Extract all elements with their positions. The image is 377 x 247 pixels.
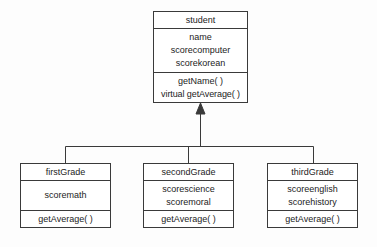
class-box-firstgrade[interactable]: firstGrade scoremath getAverage( ) <box>20 163 111 228</box>
methods-section-student: getName( ) virtual getAverage( ) <box>154 73 247 102</box>
class-name-section-thirdgrade: thirdGrade <box>268 164 357 181</box>
method-row: getAverage( ) <box>144 213 233 226</box>
attributes-section-thirdgrade: scoreenglish scorehistory <box>268 181 357 211</box>
attribute-row: scorescience <box>144 183 233 196</box>
attribute-row: scoremath <box>21 189 110 202</box>
class-box-student[interactable]: student name scorecomputer scorekorean g… <box>153 11 248 103</box>
method-row: getName( ) <box>154 75 247 88</box>
class-name-student: student <box>154 14 247 27</box>
class-name-section-firstgrade: firstGrade <box>21 164 110 181</box>
class-name-section-student: student <box>154 12 247 29</box>
attribute-row: scoreenglish <box>268 183 357 196</box>
attributes-section-firstgrade: scoremath <box>21 181 110 211</box>
method-row: getAverage( ) <box>268 213 357 226</box>
class-name-firstgrade: firstGrade <box>21 166 110 179</box>
inheritance-arrowhead <box>196 103 205 114</box>
attribute-row: scorekorean <box>154 57 247 70</box>
methods-section-thirdgrade: getAverage( ) <box>268 211 357 228</box>
methods-section-firstgrade: getAverage( ) <box>21 211 110 228</box>
method-row: getAverage( ) <box>21 213 110 226</box>
class-name-secondgrade: secondGrade <box>144 166 233 179</box>
attribute-row: scorecomputer <box>154 44 247 57</box>
attributes-section-student: name scorecomputer scorekorean <box>154 29 247 73</box>
attributes-section-secondgrade: scorescience scoremoral <box>144 181 233 211</box>
method-row: virtual getAverage( ) <box>154 88 247 101</box>
uml-class-diagram: student name scorecomputer scorekorean g… <box>0 0 377 247</box>
attribute-row: name <box>154 31 247 44</box>
class-name-thirdgrade: thirdGrade <box>268 166 357 179</box>
class-box-thirdgrade[interactable]: thirdGrade scoreenglish scorehistory get… <box>267 163 358 228</box>
attribute-row: scorehistory <box>268 196 357 209</box>
class-name-section-secondgrade: secondGrade <box>144 164 233 181</box>
attribute-row: scoremoral <box>144 196 233 209</box>
class-box-secondgrade[interactable]: secondGrade scorescience scoremoral getA… <box>143 163 234 228</box>
methods-section-secondgrade: getAverage( ) <box>144 211 233 228</box>
